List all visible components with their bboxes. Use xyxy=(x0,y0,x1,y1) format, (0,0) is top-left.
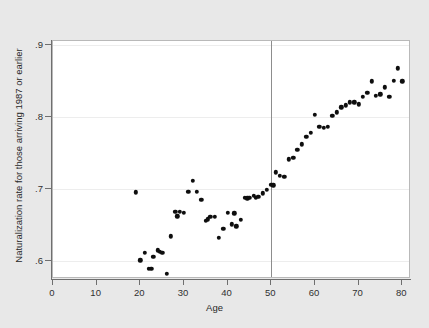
data-point xyxy=(212,215,216,219)
data-point xyxy=(365,91,369,95)
y-tick-label: .6 xyxy=(22,254,43,265)
data-point xyxy=(282,174,286,178)
x-tick-label: 70 xyxy=(352,287,363,298)
data-point xyxy=(149,267,153,271)
x-tick-label: 0 xyxy=(49,287,54,298)
data-point xyxy=(387,94,391,98)
data-point xyxy=(304,135,308,139)
data-point xyxy=(335,110,339,114)
x-tick-label: 80 xyxy=(396,287,407,298)
data-point xyxy=(361,94,365,98)
x-tick-mark xyxy=(183,280,184,285)
data-point xyxy=(175,214,179,218)
data-point xyxy=(160,251,164,255)
gridline-y xyxy=(53,117,409,118)
y-axis-title: Naturalization rate for those arriving 1… xyxy=(13,37,24,275)
data-point xyxy=(217,236,221,240)
data-point xyxy=(265,187,269,191)
data-point xyxy=(326,125,330,129)
x-tick-mark xyxy=(96,280,97,285)
x-tick-mark xyxy=(358,280,359,285)
y-tick-mark xyxy=(45,260,51,261)
y-axis-line xyxy=(51,40,52,279)
y-tick-mark xyxy=(45,44,51,45)
data-point xyxy=(260,191,264,195)
plot-region xyxy=(52,40,410,278)
data-point xyxy=(391,78,395,82)
y-tick-mark xyxy=(45,188,51,189)
cutoff-line xyxy=(271,41,272,277)
gridline-y xyxy=(53,45,409,46)
data-point xyxy=(191,179,195,183)
data-point xyxy=(400,79,404,83)
x-tick-label: 60 xyxy=(309,287,320,298)
data-point xyxy=(182,210,186,214)
data-point xyxy=(396,66,400,70)
x-tick-label: 30 xyxy=(178,287,189,298)
data-point xyxy=(169,234,173,238)
y-tick-label: .9 xyxy=(22,38,43,49)
x-tick-label: 20 xyxy=(134,287,145,298)
data-point xyxy=(383,85,387,89)
x-tick-mark xyxy=(401,280,402,285)
x-tick-label: 10 xyxy=(90,287,101,298)
y-tick-label: .8 xyxy=(22,110,43,121)
data-point xyxy=(378,92,382,96)
x-axis-title: Age xyxy=(0,302,429,313)
data-point xyxy=(356,102,360,106)
data-point xyxy=(134,190,138,194)
x-tick-mark xyxy=(270,280,271,285)
data-point xyxy=(186,190,190,194)
data-point xyxy=(343,103,347,107)
data-point xyxy=(234,224,238,228)
chart-figure: .6.7.8.9 01020304050607080 Age Naturaliz… xyxy=(0,0,429,328)
x-tick-mark xyxy=(139,280,140,285)
x-tick-label: 40 xyxy=(221,287,232,298)
data-point xyxy=(164,272,168,276)
x-tick-mark xyxy=(52,280,53,285)
x-tick-label: 50 xyxy=(265,287,276,298)
y-tick-label: .7 xyxy=(22,182,43,193)
data-point xyxy=(199,197,203,201)
data-point xyxy=(271,183,275,187)
data-point xyxy=(291,156,295,160)
gridline-y xyxy=(53,189,409,190)
data-point xyxy=(370,79,374,83)
x-tick-mark xyxy=(227,280,228,285)
data-point xyxy=(195,190,199,194)
data-point xyxy=(232,211,236,215)
data-point xyxy=(142,251,146,255)
data-point xyxy=(256,195,260,199)
y-tick-mark xyxy=(45,116,51,117)
data-point xyxy=(151,254,155,258)
data-point xyxy=(239,218,243,222)
x-tick-mark xyxy=(314,280,315,285)
data-point xyxy=(221,226,225,230)
data-point xyxy=(295,148,299,152)
data-point xyxy=(308,130,312,134)
data-point xyxy=(225,210,229,214)
data-point xyxy=(300,142,304,146)
gridline-y xyxy=(53,261,409,262)
